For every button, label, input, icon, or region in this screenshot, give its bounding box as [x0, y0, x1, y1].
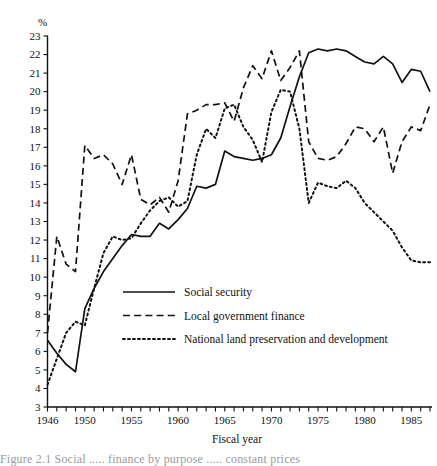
y-axis-tick-label: 11: [30, 252, 41, 264]
y-axis-tick-label: 10: [30, 271, 42, 283]
x-axis-tick-label: 1985: [400, 414, 423, 426]
figure-caption-fragment: Figure 2.1 Social ..... finance by purpo…: [0, 452, 437, 466]
y-axis-tick-label: 23: [30, 30, 42, 42]
x-axis-tick-label: 1965: [214, 414, 237, 426]
x-axis-tick-label: 1960: [167, 414, 190, 426]
chart-figure: 34567891011121314151617181920212223 1946…: [0, 0, 437, 466]
x-axis-tick-label: 1950: [74, 414, 97, 426]
legend-label: National land preservation and developme…: [184, 333, 389, 346]
legend-label: Social security: [184, 286, 252, 299]
y-axis-tick-label: 7: [35, 327, 41, 339]
y-axis-tick-label: 13: [30, 215, 42, 227]
legend-label: Local government finance: [184, 310, 305, 323]
y-axis: 34567891011121314151617181920212223: [30, 30, 48, 413]
y-axis-tick-label: 22: [30, 48, 41, 60]
y-axis-unit-label: %: [38, 16, 47, 28]
y-axis-tick-label: 15: [30, 178, 42, 190]
y-axis-tick-label: 20: [30, 85, 42, 97]
chart-legend: Social securityLocal government financeN…: [123, 286, 389, 346]
y-axis-tick-label: 14: [30, 197, 42, 209]
line-chart: 34567891011121314151617181920212223 1946…: [0, 0, 437, 466]
y-axis-tick-label: 16: [30, 160, 42, 172]
x-axis-tick-label: 1980: [354, 414, 377, 426]
y-axis-tick-label: 21: [30, 67, 41, 79]
y-axis-tick-label: 5: [35, 364, 41, 376]
y-axis-tick-label: 3: [35, 401, 41, 413]
y-axis-tick-label: 19: [30, 104, 42, 116]
y-axis-tick-label: 4: [35, 382, 41, 394]
y-axis-tick-label: 17: [30, 141, 42, 153]
y-axis-tick-label: 6: [35, 345, 41, 357]
x-axis-tick-label: 1970: [260, 414, 283, 426]
x-axis-tick-label: 1946: [37, 414, 60, 426]
y-axis-tick-label: 12: [30, 234, 41, 246]
y-axis-tick-label: 8: [35, 308, 41, 320]
y-axis-tick-label: 9: [35, 290, 41, 302]
x-axis: 194619501955196019651970197519801985: [37, 407, 433, 426]
y-axis-tick-label: 18: [30, 123, 42, 135]
x-axis-title: Fiscal year: [212, 433, 262, 446]
x-axis-tick-label: 1975: [307, 414, 330, 426]
x-axis-tick-label: 1955: [120, 414, 143, 426]
